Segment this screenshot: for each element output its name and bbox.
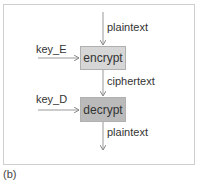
plaintext-in-label: plaintext bbox=[107, 21, 148, 33]
plaintext-out-label: plaintext bbox=[107, 126, 148, 138]
key-d-label: key_D bbox=[36, 93, 67, 105]
decrypt-label: decrypt bbox=[83, 103, 122, 117]
encrypt-label: encrypt bbox=[83, 51, 122, 65]
arrows-layer bbox=[0, 0, 199, 183]
figure-caption: (b) bbox=[3, 168, 16, 180]
key-e-label: key_E bbox=[36, 43, 67, 55]
decrypt-box: decrypt bbox=[80, 97, 126, 122]
encrypt-box: encrypt bbox=[80, 46, 126, 70]
ciphertext-label: ciphertext bbox=[107, 75, 155, 87]
